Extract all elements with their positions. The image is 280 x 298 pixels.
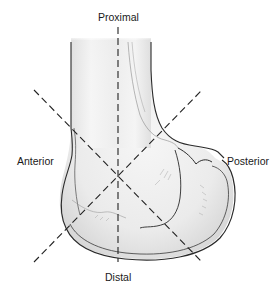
femur-illustration [0,0,280,298]
label-proximal: Proximal [98,12,139,23]
anatomical-diagram: Proximal Anterior Posterior Distal [0,0,280,298]
label-posterior: Posterior [227,156,269,167]
label-anterior: Anterior [17,156,54,167]
femur-bone [60,36,235,260]
label-distal: Distal [105,272,131,283]
